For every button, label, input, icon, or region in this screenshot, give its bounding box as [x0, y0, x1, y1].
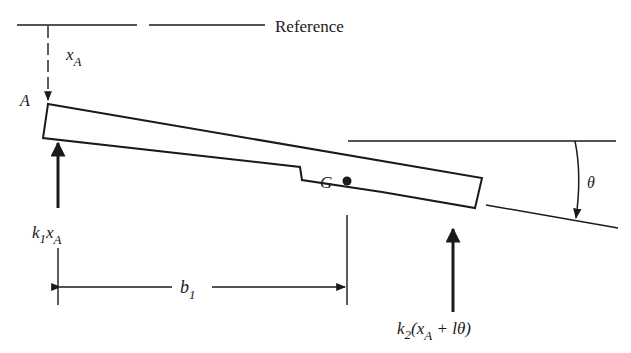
xA-label: xA [65, 45, 82, 69]
center-of-gravity-label: G [320, 173, 332, 192]
spring-force-right-label: k2(xA + lθ) [397, 319, 471, 343]
vehicle-body [43, 104, 482, 208]
b1-label: b1 [180, 277, 196, 302]
vehicle-pitch-diagram: Reference xA A G k1xA k2(xA + lθ) b1 θ [0, 0, 631, 353]
reference-label: Reference [275, 17, 344, 36]
center-of-gravity-dot [343, 177, 352, 186]
point-A-label: A [19, 92, 30, 109]
spring-force-left-label: k1xA [32, 223, 62, 247]
b1-dimension [58, 215, 347, 305]
theta-label: θ [587, 174, 595, 191]
